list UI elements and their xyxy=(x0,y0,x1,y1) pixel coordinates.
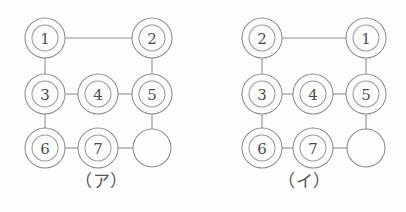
node-label: 3 xyxy=(257,86,267,104)
node-outer-circle xyxy=(133,129,171,167)
node-label: 7 xyxy=(308,140,318,158)
graph-node[interactable]: 2 xyxy=(242,18,282,58)
node-outer-circle xyxy=(347,129,385,167)
graph-node[interactable]: 7 xyxy=(78,128,118,168)
graph-node[interactable]: 5 xyxy=(346,74,386,114)
figure-a: 1234567 （ア） xyxy=(0,0,203,212)
graph-node-empty[interactable] xyxy=(133,129,171,167)
node-label: 2 xyxy=(257,30,267,48)
graph-node[interactable]: 1 xyxy=(346,18,386,58)
node-label: 4 xyxy=(308,86,318,104)
graph-node-empty[interactable] xyxy=(347,129,385,167)
graph-node[interactable]: 1 xyxy=(25,18,65,58)
node-label: 2 xyxy=(147,30,157,48)
graph-node[interactable]: 2 xyxy=(132,18,172,58)
node-label: 5 xyxy=(147,86,157,104)
figure-a-caption: （ア） xyxy=(0,173,203,190)
node-label: 1 xyxy=(40,30,50,48)
graph-a: 1234567 xyxy=(0,0,203,180)
graph-node[interactable]: 7 xyxy=(293,128,333,168)
node-label: 7 xyxy=(93,140,103,158)
graph-node[interactable]: 5 xyxy=(132,74,172,114)
node-label: 6 xyxy=(257,140,267,158)
graph-b: 2134567 xyxy=(203,0,406,180)
graph-node[interactable]: 4 xyxy=(78,74,118,114)
node-label: 5 xyxy=(361,86,371,104)
node-label: 6 xyxy=(40,140,50,158)
graph-node[interactable]: 6 xyxy=(242,128,282,168)
graph-node[interactable]: 6 xyxy=(25,128,65,168)
graph-node[interactable]: 3 xyxy=(25,74,65,114)
node-label: 4 xyxy=(93,86,103,104)
figure-b-caption: （イ） xyxy=(203,173,406,190)
node-label: 1 xyxy=(361,30,371,48)
figure-b: 2134567 （イ） xyxy=(203,0,406,212)
node-label: 3 xyxy=(40,86,50,104)
graph-node[interactable]: 4 xyxy=(293,74,333,114)
graph-node[interactable]: 3 xyxy=(242,74,282,114)
diagram-pair: 1234567 （ア） 2134567 （イ） xyxy=(0,0,406,212)
